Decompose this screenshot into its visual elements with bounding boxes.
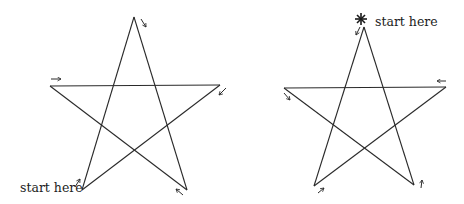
arrow-up-left-icon	[176, 189, 183, 195]
arrow-down-left-icon	[219, 88, 226, 95]
right-star-edge	[284, 88, 414, 185]
right-direction-arrows	[284, 27, 446, 193]
arrow-up-icon	[421, 180, 422, 188]
left-star-edge	[134, 17, 187, 190]
right-pentagram	[284, 27, 446, 186]
arrow-down-left-icon	[356, 27, 360, 35]
left-pentagram	[50, 17, 220, 190]
right-star-edge	[284, 87, 446, 88]
right-star-edge	[364, 27, 414, 185]
right-star-edge	[314, 27, 364, 186]
diagram-canvas	[0, 0, 464, 204]
arrow-down-right-icon	[141, 19, 146, 27]
left-star-edge	[50, 86, 187, 190]
start-here-label-right: start here	[375, 16, 438, 29]
start-asterisk-icon	[355, 13, 367, 25]
left-star-edge	[50, 85, 220, 86]
start-here-label-left: start here	[20, 182, 83, 195]
arrow-up-right-icon	[318, 188, 324, 193]
left-star-edge	[82, 17, 134, 190]
left-star-edge	[82, 85, 220, 190]
right-star-edge	[314, 87, 446, 186]
arrow-down-right-icon	[284, 93, 290, 100]
